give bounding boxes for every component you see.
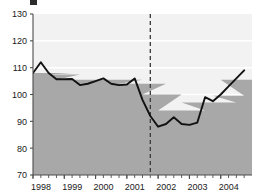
- y-tick-label: 90: [17, 117, 27, 127]
- chart-container: 708090100110120130 199819992000200120022…: [0, 0, 255, 196]
- y-tick-label: 120: [12, 36, 27, 46]
- x-tick-label: 2004: [219, 182, 239, 192]
- x-tick-label: 2001: [125, 182, 145, 192]
- y-axis-ticks: 708090100110120130: [12, 9, 33, 180]
- y-tick-label: 70: [17, 170, 27, 180]
- x-tick-label: 2002: [156, 182, 176, 192]
- y-tick-label: 110: [13, 63, 27, 73]
- line-chart-plot: 708090100110120130 199819992000200120022…: [0, 0, 255, 196]
- x-tick-label: 2000: [94, 182, 114, 192]
- x-tick-label: 1999: [62, 182, 82, 192]
- y-tick-label: 100: [12, 90, 27, 100]
- x-tick-label: 1998: [31, 182, 51, 192]
- y-tick-label: 130: [12, 9, 27, 19]
- x-tick-label: 2003: [187, 182, 207, 192]
- y-tick-label: 80: [17, 144, 27, 154]
